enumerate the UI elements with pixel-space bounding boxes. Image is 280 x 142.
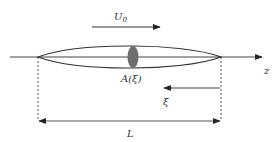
z-axis-label: z bbox=[263, 65, 270, 76]
slender-body-diagram: z A(ξ) U0 ξ L bbox=[0, 0, 280, 142]
cross-section-area bbox=[128, 46, 139, 68]
length-label: L bbox=[126, 128, 134, 139]
velocity-subscript: 0 bbox=[122, 16, 127, 24]
xi-label: ξ bbox=[163, 96, 169, 107]
cross-section-label: A(ξ) bbox=[120, 73, 142, 84]
velocity-label: U0 bbox=[114, 11, 127, 24]
